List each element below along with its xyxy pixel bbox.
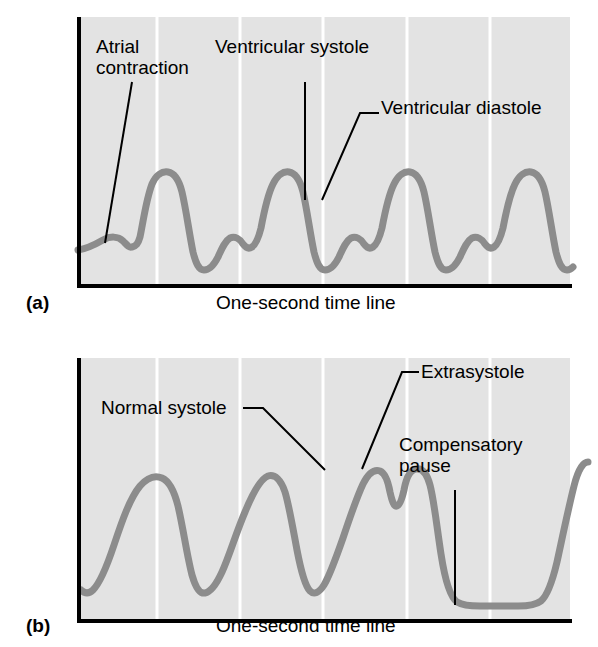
- panel-b-letter: (b): [26, 616, 50, 635]
- label-compensatory-pause: Compensatory pause: [399, 434, 523, 476]
- label-atrial-contraction-line1: Atrial: [96, 36, 189, 57]
- label-extrasystole: Extrasystole: [421, 361, 524, 382]
- label-ventricular-systole: Ventricular systole: [215, 36, 369, 57]
- label-normal-systole: Normal systole: [101, 397, 227, 418]
- panel-a: Atrial contraction Ventricular systole V…: [0, 0, 598, 324]
- label-atrial-contraction: Atrial contraction: [96, 36, 189, 78]
- cardiac-myogram-figure: Atrial contraction Ventricular systole V…: [0, 0, 598, 647]
- label-compensatory-pause-line2: pause: [399, 455, 523, 476]
- panel-b: Normal systole Extrasystole Compensatory…: [0, 324, 598, 647]
- label-ventricular-diastole: Ventricular diastole: [381, 97, 542, 118]
- panel-b-caption: One-second time line: [216, 616, 396, 635]
- label-compensatory-pause-line1: Compensatory: [399, 434, 523, 455]
- panel-a-caption: One-second time line: [216, 293, 396, 312]
- panel-a-letter: (a): [26, 293, 49, 312]
- label-atrial-contraction-line2: contraction: [96, 57, 189, 78]
